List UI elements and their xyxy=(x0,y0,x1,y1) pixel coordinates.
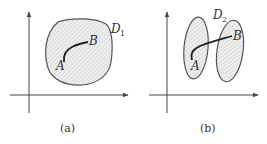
caption-a: (a) xyxy=(60,122,75,135)
region-d1 xyxy=(46,19,112,85)
region-d2-right xyxy=(213,18,247,83)
label-b-start: A xyxy=(190,59,200,73)
label-a-end: B xyxy=(88,34,98,48)
label-b-end: B xyxy=(232,29,242,43)
caption-b: (b) xyxy=(200,122,216,135)
panel-a: A B D 1 (a) xyxy=(10,12,128,135)
panel-b: A B D 2 (b) xyxy=(149,8,258,135)
label-d2-subscript: 2 xyxy=(222,15,227,24)
label-d1-subscript: 1 xyxy=(120,29,125,38)
label-a-start: A xyxy=(55,59,65,73)
figure-canvas: A B D 1 (a) A B D 2 (b) xyxy=(0,0,267,144)
